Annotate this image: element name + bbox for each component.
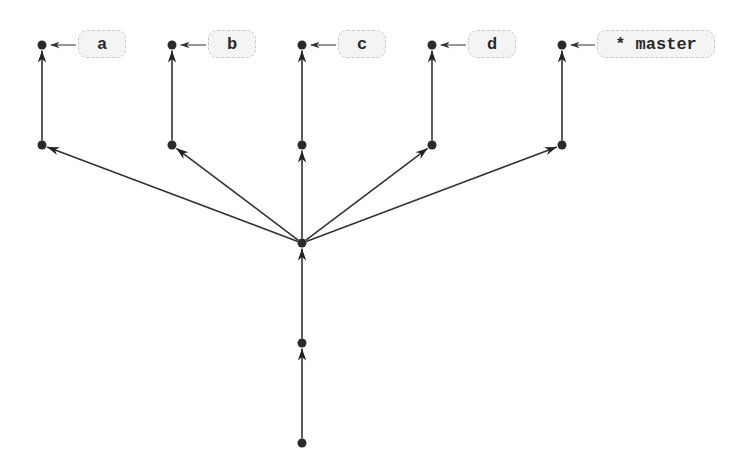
- commit-node[interactable]: [298, 141, 307, 150]
- commit-node[interactable]: [168, 41, 177, 50]
- commit-node[interactable]: [298, 41, 307, 50]
- commit-graph: [0, 0, 742, 476]
- commit-node[interactable]: [428, 141, 437, 150]
- commit-edge: [306, 147, 557, 241]
- commit-edge: [47, 147, 298, 241]
- branch-label-a[interactable]: a: [78, 30, 126, 58]
- commit-node[interactable]: [428, 41, 437, 50]
- commit-edge: [176, 148, 298, 240]
- commit-node[interactable]: [298, 239, 307, 248]
- commit-node[interactable]: [298, 339, 307, 348]
- commit-node[interactable]: [168, 141, 177, 150]
- commit-edge: [306, 148, 428, 240]
- commit-node[interactable]: [298, 439, 307, 448]
- branch-label-master[interactable]: * master: [597, 30, 715, 58]
- commit-node[interactable]: [38, 141, 47, 150]
- branch-label-d[interactable]: d: [468, 30, 516, 58]
- branch-label-b[interactable]: b: [208, 30, 256, 58]
- branch-label-c[interactable]: c: [338, 30, 386, 58]
- commit-node[interactable]: [38, 41, 47, 50]
- commit-node[interactable]: [558, 41, 567, 50]
- commit-node[interactable]: [558, 141, 567, 150]
